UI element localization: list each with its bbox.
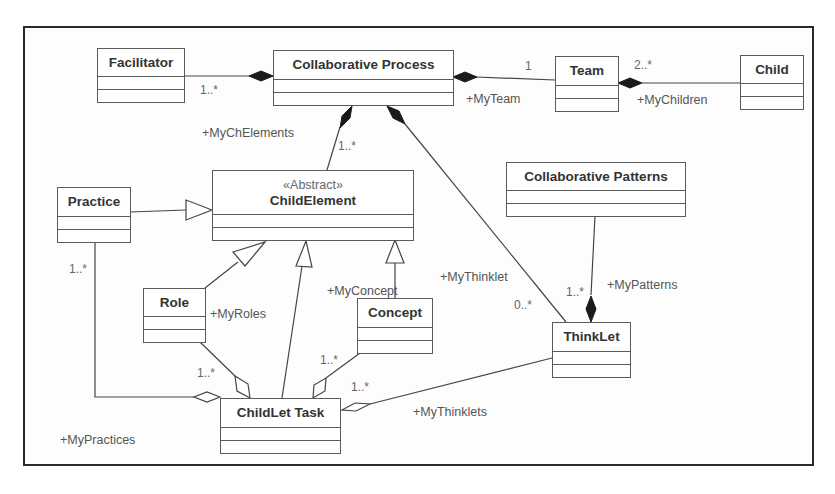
- link-process-thinklet: [405, 124, 566, 322]
- role-label-my-practices: +MyPractices: [60, 433, 135, 447]
- class-name: Role: [144, 289, 205, 317]
- attributes-compartment: [556, 86, 618, 98]
- link-role-gen: [205, 262, 238, 288]
- class-child[interactable]: Child: [740, 55, 804, 110]
- stereotype-label: «Abstract»: [283, 177, 343, 193]
- role-label-my-concept: +MyConcept: [327, 284, 398, 298]
- attributes-compartment: [741, 84, 803, 96]
- class-name: ChildLet Task: [221, 399, 340, 428]
- class-collaborative-patterns[interactable]: Collaborative Patterns: [506, 162, 686, 217]
- generalization-arrow-practice: [186, 200, 212, 220]
- operations-compartment: [553, 364, 630, 377]
- aggregation-diamond-concept: [313, 378, 326, 398]
- role-label-my-team: +MyTeam: [466, 92, 521, 106]
- operations-compartment: [98, 89, 184, 102]
- attributes-compartment: [144, 317, 205, 329]
- class-facilitator[interactable]: Facilitator: [97, 48, 185, 103]
- operations-compartment: [144, 329, 205, 342]
- attributes-compartment: [98, 77, 184, 89]
- class-child-element[interactable]: «Abstract» ChildElement: [212, 170, 414, 241]
- composition-diamond-child: [618, 78, 642, 88]
- multiplicity-thinklet: 0..*: [514, 298, 532, 312]
- class-collaborative-process[interactable]: Collaborative Process: [273, 50, 454, 106]
- multiplicity-children: 2..*: [634, 58, 652, 72]
- role-label-my-children: +MyChildren: [637, 93, 708, 107]
- aggregation-diamond-role: [235, 376, 250, 398]
- class-name: Facilitator: [98, 49, 184, 77]
- diagram-canvas: Facilitator Collaborative Process Team C…: [0, 0, 835, 494]
- operations-compartment: [274, 92, 453, 105]
- class-concept[interactable]: Concept: [357, 298, 433, 354]
- class-name: Collaborative Process: [274, 51, 453, 80]
- aggregation-diamond-thinklet: [342, 403, 370, 411]
- class-thinklet[interactable]: ThinkLet: [552, 322, 631, 378]
- role-label-my-thinklets: +MyThinklets: [413, 405, 487, 419]
- class-role[interactable]: Role: [143, 288, 206, 343]
- class-name: Child: [741, 56, 803, 84]
- multiplicity-ch-elements: 1..*: [338, 139, 356, 153]
- role-label-my-patterns: +MyPatterns: [607, 278, 678, 292]
- class-name: Practice: [58, 188, 130, 217]
- multiplicity-role: 1..*: [197, 366, 215, 380]
- attributes-compartment: [213, 215, 413, 227]
- operations-compartment: [221, 440, 340, 453]
- composition-diamond-facilitator: [249, 71, 273, 81]
- link-process-team: [476, 77, 555, 80]
- class-name: Concept: [358, 299, 432, 328]
- attributes-compartment: [221, 428, 340, 440]
- class-team[interactable]: Team: [555, 56, 619, 112]
- role-label-my-thinklet: +MyThinklet: [440, 270, 508, 284]
- class-name: ThinkLet: [553, 323, 630, 352]
- role-label-my-ch-elements: +MyChElements: [202, 126, 294, 140]
- attributes-compartment: [274, 80, 453, 92]
- multiplicity-practice: 1..*: [69, 262, 87, 276]
- aggregation-diamond-practice: [194, 392, 220, 402]
- attributes-compartment: [507, 191, 685, 203]
- link-task-thinklet: [370, 358, 552, 404]
- composition-diamond-team: [453, 72, 477, 82]
- composition-diamond-chelements: [340, 106, 352, 128]
- class-childlet-task[interactable]: ChildLet Task: [220, 398, 341, 454]
- class-practice[interactable]: Practice: [57, 187, 131, 243]
- role-label-my-roles: +MyRoles: [210, 307, 266, 321]
- multiplicity-patterns: 1..*: [566, 285, 584, 299]
- class-name-block: «Abstract» ChildElement: [213, 171, 413, 215]
- multiplicity-concept: 1..*: [320, 353, 338, 367]
- multiplicity-facilitator: 1..*: [200, 83, 218, 97]
- operations-compartment: [556, 98, 618, 111]
- class-name: Collaborative Patterns: [507, 163, 685, 191]
- generalization-arrow-concept: [386, 240, 404, 263]
- multiplicity-team: 1: [525, 59, 532, 73]
- composition-diamond-thinklet: [387, 106, 405, 124]
- multiplicity-thinklets: 1..*: [351, 380, 369, 394]
- link-practice-gen: [130, 210, 186, 212]
- operations-compartment: [507, 203, 685, 216]
- class-name: Team: [556, 57, 618, 86]
- attributes-compartment: [553, 352, 630, 364]
- operations-compartment: [213, 227, 413, 240]
- operations-compartment: [58, 229, 130, 242]
- attributes-compartment: [58, 217, 130, 229]
- link-patterns-thinklet: [591, 216, 595, 295]
- attributes-compartment: [358, 328, 432, 340]
- composition-diamond-patterns: [586, 296, 596, 322]
- generalization-arrow-task: [296, 241, 312, 267]
- class-name: ChildElement: [270, 193, 356, 209]
- operations-compartment: [741, 96, 803, 109]
- link-task-gen: [282, 266, 302, 398]
- operations-compartment: [358, 340, 432, 353]
